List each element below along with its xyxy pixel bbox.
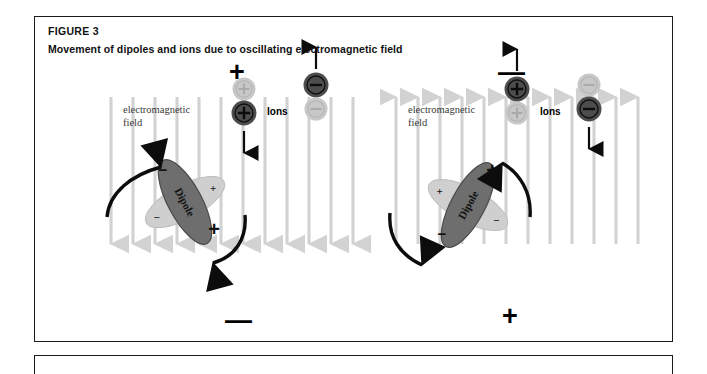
positive-ion-dark-left (232, 101, 257, 126)
positive-ion-faded-right (506, 102, 529, 125)
ions-label-left: Ions (267, 106, 288, 117)
svg-text:−: − (154, 211, 160, 223)
negative-ion-dark-right (577, 97, 602, 122)
following-box (34, 355, 673, 374)
svg-text:+: + (210, 182, 216, 194)
svg-text:+: + (437, 185, 443, 197)
svg-text:−: − (493, 214, 499, 226)
panel-right: — electromag (380, 17, 680, 343)
polarity-bottom-left: — (225, 307, 249, 334)
particles-right: + − Dipole + − (380, 17, 680, 343)
dipole-plus-right: + (486, 159, 498, 181)
dipole-minus-right: − (438, 225, 447, 242)
dipole-rotation-arrow-lower-right (390, 213, 422, 265)
negative-ion-dark-left (304, 73, 329, 98)
ions-label-right: Ions (540, 106, 561, 117)
dipole-rotation-arrow-upper-right (502, 163, 530, 217)
dipole-plus-left: + (208, 218, 220, 240)
polarity-bottom-right: + (498, 303, 522, 330)
negative-ion-faded-left (305, 98, 328, 121)
figure-number: FIGURE 3 (48, 25, 99, 37)
particles-left: + − Dipole − + (95, 17, 395, 343)
negative-ion-faded-right (578, 74, 601, 97)
panel-left: + electromag (95, 17, 395, 343)
positive-ion-faded-left (233, 78, 256, 101)
dipole-minus-left: − (159, 161, 168, 178)
figure-box: FIGURE 3 Movement of dipoles and ions du… (34, 16, 673, 342)
positive-ion-dark-right (505, 77, 530, 102)
